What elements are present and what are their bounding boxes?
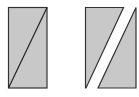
diagram-canvas	[0, 0, 139, 97]
split-rectangle-figure	[86, 8, 137, 89]
whole-rectangle-figure	[9, 8, 48, 89]
